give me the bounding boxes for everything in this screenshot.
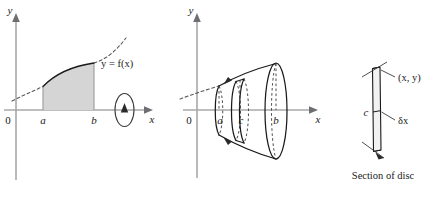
mid-tick-label-a: a	[217, 114, 223, 126]
left-origin-label: 0	[5, 114, 11, 126]
rotation-arrowhead	[121, 103, 128, 113]
disc-c-front-arc	[232, 82, 237, 141]
rotation-direction-arrow-bottom	[224, 138, 233, 146]
mid-y-axis-arrowhead	[193, 13, 201, 22]
mid-y-axis-label: y	[188, 4, 194, 16]
mid-x-axis-label: x	[315, 113, 321, 125]
volume-of-revolution-figure: y x 0 a b y = f(x)	[0, 0, 427, 197]
radius-label-c: c	[364, 106, 369, 118]
function-label: y = f(x)	[101, 58, 134, 70]
point-leader-line	[381, 70, 395, 77]
disc-b-back-arc	[272, 64, 277, 160]
disc-slab	[373, 67, 382, 152]
thickness-leader-line	[382, 112, 396, 120]
left-tick-label-b: b	[91, 114, 97, 126]
left-y-axis-label: y	[7, 4, 13, 16]
panel-solid-of-revolution: y x 0 a c b	[175, 0, 340, 197]
left-y-axis-arrowhead	[12, 13, 20, 22]
disc-c2-back-arc	[244, 79, 249, 143]
left-x-axis-label: x	[149, 113, 155, 125]
disc-caption: Section of disc	[352, 170, 415, 181]
rotation-direction-arrow-top	[224, 77, 233, 85]
disc-bottom-arrowhead	[376, 153, 385, 160]
panel-area-under-curve: y x 0 a b y = f(x)	[0, 0, 175, 197]
mid-origin-label: 0	[186, 114, 192, 126]
thickness-label: δx	[398, 115, 409, 126]
point-label: (x, y)	[398, 72, 421, 84]
panel-section-of-disc: (x, y) c δx Section of disc	[340, 0, 427, 197]
disc-b-rim-ellipse	[265, 63, 287, 159]
generating-curve-dashed	[180, 86, 219, 99]
left-tick-label-a: a	[40, 114, 46, 126]
mid-tick-label-b: b	[273, 114, 279, 126]
mid-tick-label-c: c	[239, 114, 244, 126]
